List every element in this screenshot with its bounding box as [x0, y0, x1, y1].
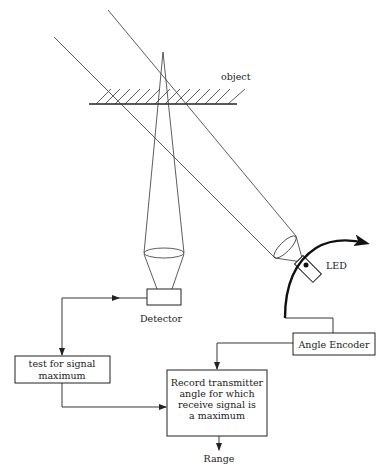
record-box-line-1: Record transmitter — [171, 377, 264, 388]
object-label: object — [221, 71, 251, 82]
arc-to-encoder-line — [285, 318, 333, 333]
test-box-line-1: test for signal — [29, 358, 96, 369]
detector-lens — [144, 248, 184, 258]
led-label: LED — [326, 260, 347, 271]
range-label: Range — [204, 453, 235, 464]
led-assembly — [271, 233, 322, 283]
detector-to-test-arrow — [62, 298, 147, 355]
transmitter-beam — [54, 10, 296, 258]
rangefinder-diagram: object Detector LED Angle Encoder test f… — [0, 0, 386, 476]
led-pivot — [304, 263, 309, 268]
led-lens — [271, 233, 299, 261]
test-box-line-2: maximum — [38, 370, 85, 381]
detector-box — [147, 289, 181, 305]
flow-arrowhead-icon — [112, 295, 120, 301]
led-box — [295, 256, 322, 283]
scan-arc-arrow — [285, 240, 366, 318]
encoder-to-record-arrow — [217, 343, 293, 369]
record-box-line-4: a maximum — [189, 410, 245, 421]
angle-encoder-label: Angle Encoder — [297, 339, 370, 350]
record-box-line-2: angle for which — [179, 388, 254, 399]
record-box-line-3: receive signal is — [178, 399, 256, 410]
receiver-cone — [144, 52, 184, 289]
detector-label: Detector — [140, 313, 183, 324]
test-to-record-arrow — [62, 383, 166, 407]
